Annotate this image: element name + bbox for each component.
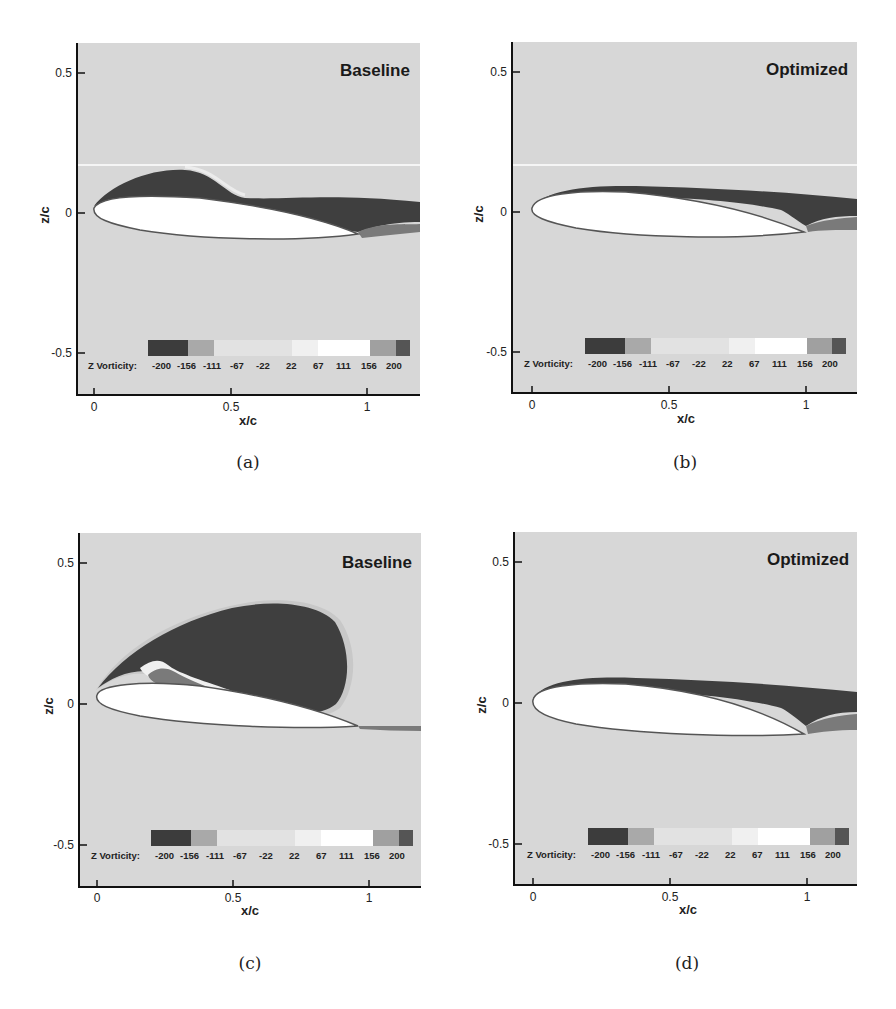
- panel-a: Z Vorticity: -200 -156 -111 -67 -22 22 6…: [0, 0, 448, 480]
- svg-text:0.5: 0.5: [661, 398, 678, 412]
- colorbar-d: [588, 828, 849, 845]
- svg-text:156: 156: [797, 358, 813, 369]
- svg-text:Z Vorticity:: Z Vorticity:: [91, 850, 140, 861]
- panel-b: Z Vorticity: -200 -156 -111 -67 -22 22 6…: [436, 0, 884, 480]
- svg-text:-200: -200: [152, 360, 171, 371]
- svg-text:0.5: 0.5: [225, 891, 242, 905]
- svg-text:z/c: z/c: [37, 206, 52, 223]
- colorbar-b: [585, 338, 846, 354]
- svg-text:-200: -200: [591, 849, 610, 860]
- svg-text:-22: -22: [259, 850, 273, 861]
- panel-d: Z Vorticity: -200 -156 -111 -67 -22 22 6…: [436, 490, 884, 970]
- svg-text:-200: -200: [588, 358, 607, 369]
- svg-text:1: 1: [364, 400, 371, 414]
- svg-text:-111: -111: [642, 849, 661, 860]
- svg-text:-0.5: -0.5: [51, 346, 72, 360]
- svg-text:x/c: x/c: [239, 413, 257, 428]
- svg-text:0.5: 0.5: [492, 555, 509, 569]
- caption-b: (b): [655, 452, 715, 472]
- svg-text:-0.5: -0.5: [488, 837, 509, 851]
- caption-d: (d): [657, 953, 717, 973]
- svg-text:156: 156: [361, 360, 377, 371]
- panel-title: Baseline: [340, 61, 410, 80]
- svg-text:22: 22: [289, 850, 300, 861]
- svg-text:0.5: 0.5: [55, 66, 72, 80]
- svg-text:156: 156: [364, 850, 380, 861]
- svg-text:0.5: 0.5: [223, 400, 240, 414]
- svg-text:111: 111: [772, 358, 788, 369]
- svg-text:z/c: z/c: [471, 205, 486, 222]
- svg-text:156: 156: [800, 849, 816, 860]
- svg-text:0: 0: [65, 206, 72, 220]
- svg-text:-22: -22: [256, 360, 270, 371]
- contour-plot-b: Z Vorticity: -200 -156 -111 -67 -22 22 6…: [436, 0, 884, 480]
- svg-text:0.5: 0.5: [662, 890, 679, 904]
- svg-text:-0.5: -0.5: [486, 345, 507, 359]
- colorbar-c: [151, 830, 413, 846]
- svg-text:-67: -67: [233, 850, 247, 861]
- svg-text:-67: -67: [666, 358, 680, 369]
- svg-text:-111: -111: [206, 850, 225, 861]
- colorbar-a: [148, 340, 410, 356]
- svg-text:0.5: 0.5: [490, 65, 507, 79]
- svg-text:200: 200: [825, 849, 841, 860]
- svg-text:200: 200: [822, 358, 838, 369]
- svg-text:200: 200: [386, 360, 402, 371]
- caption-c: (c): [220, 953, 280, 973]
- svg-text:-156: -156: [177, 360, 196, 371]
- svg-text:Z Vorticity:: Z Vorticity:: [88, 360, 137, 371]
- svg-text:111: 111: [339, 850, 355, 861]
- svg-text:z/c: z/c: [474, 696, 489, 713]
- svg-text:22: 22: [286, 360, 297, 371]
- svg-text:x/c: x/c: [679, 902, 697, 917]
- panel-c: Z Vorticity: -200 -156 -111 -67 -22 22 6…: [0, 490, 448, 970]
- svg-text:22: 22: [722, 358, 733, 369]
- svg-text:0: 0: [500, 205, 507, 219]
- svg-text:-67: -67: [669, 849, 683, 860]
- svg-text:0.5: 0.5: [57, 556, 74, 570]
- svg-text:1: 1: [803, 398, 810, 412]
- svg-text:Z Vorticity:: Z Vorticity:: [524, 358, 573, 369]
- svg-text:-200: -200: [155, 850, 174, 861]
- svg-text:67: 67: [749, 358, 760, 369]
- svg-text:0: 0: [91, 400, 98, 414]
- svg-text:x/c: x/c: [241, 903, 259, 918]
- panel-title: Baseline: [342, 553, 412, 572]
- svg-text:0: 0: [502, 696, 509, 710]
- svg-text:111: 111: [336, 360, 352, 371]
- svg-text:-111: -111: [203, 360, 222, 371]
- svg-text:0: 0: [67, 697, 74, 711]
- svg-text:67: 67: [752, 849, 763, 860]
- svg-text:67: 67: [316, 850, 327, 861]
- svg-text:111: 111: [775, 849, 791, 860]
- contour-plot-a: Z Vorticity: -200 -156 -111 -67 -22 22 6…: [0, 0, 448, 480]
- svg-text:-156: -156: [180, 850, 199, 861]
- svg-text:-0.5: -0.5: [53, 838, 74, 852]
- caption-a: (a): [218, 452, 278, 472]
- contour-plot-c: Z Vorticity: -200 -156 -111 -67 -22 22 6…: [0, 490, 448, 970]
- svg-text:-156: -156: [613, 358, 632, 369]
- svg-text:1: 1: [366, 891, 373, 905]
- svg-text:-156: -156: [616, 849, 635, 860]
- svg-text:22: 22: [725, 849, 736, 860]
- panel-title: Optimized: [766, 60, 848, 79]
- svg-text:0: 0: [530, 890, 537, 904]
- svg-text:67: 67: [313, 360, 324, 371]
- svg-text:0: 0: [529, 398, 536, 412]
- svg-text:z/c: z/c: [41, 697, 56, 714]
- contour-plot-d: Z Vorticity: -200 -156 -111 -67 -22 22 6…: [436, 490, 884, 970]
- svg-text:-22: -22: [692, 358, 706, 369]
- svg-text:-67: -67: [230, 360, 244, 371]
- panel-title: Optimized: [767, 550, 849, 569]
- svg-text:1: 1: [804, 890, 811, 904]
- svg-text:200: 200: [389, 850, 405, 861]
- svg-text:0: 0: [94, 891, 101, 905]
- svg-text:Z Vorticity:: Z Vorticity:: [527, 849, 576, 860]
- svg-text:-22: -22: [695, 849, 709, 860]
- svg-text:-111: -111: [639, 358, 658, 369]
- svg-text:x/c: x/c: [677, 411, 695, 426]
